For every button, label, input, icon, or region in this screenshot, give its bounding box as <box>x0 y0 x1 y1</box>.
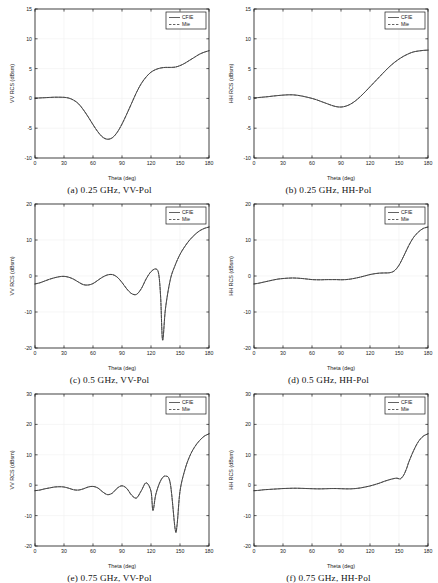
svg-text:Mie: Mie <box>182 216 190 222</box>
svg-text:CFIE: CFIE <box>401 14 413 20</box>
svg-text:-20: -20 <box>243 543 251 549</box>
svg-text:20: 20 <box>245 201 251 207</box>
svg-text:90: 90 <box>338 350 344 356</box>
svg-text:-10: -10 <box>243 309 251 315</box>
svg-text:30: 30 <box>280 548 286 554</box>
svg-text:120: 120 <box>365 548 374 554</box>
svg-text:0: 0 <box>29 273 32 279</box>
svg-text:0: 0 <box>29 95 32 101</box>
svg-text:HH RCS (dBsm): HH RCS (dBsm) <box>227 64 233 104</box>
svg-text:CFIE: CFIE <box>182 14 194 20</box>
svg-text:10: 10 <box>26 36 32 42</box>
caption-c: (c) 0.5 GHz, VV-Pol <box>70 374 150 385</box>
svg-text:180: 180 <box>204 160 213 166</box>
svg-text:150: 150 <box>175 350 184 356</box>
svg-text:90: 90 <box>338 160 344 166</box>
plot-c: 0306090120150180-20-1001020Theta (deg)VV… <box>5 195 215 374</box>
svg-text:0: 0 <box>248 273 251 279</box>
svg-text:-10: -10 <box>24 309 32 315</box>
svg-text:20: 20 <box>245 421 251 427</box>
svg-text:120: 120 <box>146 350 155 356</box>
svg-text:Theta (deg): Theta (deg) <box>108 175 136 181</box>
svg-text:-5: -5 <box>27 125 32 131</box>
svg-text:120: 120 <box>365 350 374 356</box>
panel-c: 0306090120150180-20-1001020Theta (deg)VV… <box>0 195 219 385</box>
svg-text:30: 30 <box>61 160 67 166</box>
svg-text:10: 10 <box>26 452 32 458</box>
svg-text:60: 60 <box>309 548 315 554</box>
svg-text:-20: -20 <box>24 345 32 351</box>
svg-text:120: 120 <box>146 160 155 166</box>
svg-text:120: 120 <box>365 160 374 166</box>
svg-text:-5: -5 <box>246 125 251 131</box>
svg-text:Mie: Mie <box>401 216 409 222</box>
svg-text:15: 15 <box>26 6 32 12</box>
caption-e: (e) 0.75 GHz, VV-Pol <box>67 572 151 583</box>
svg-text:VV RCS (dBsm): VV RCS (dBsm) <box>8 256 14 295</box>
plot-b: 0306090120150180-10-5051015Theta (deg)HH… <box>224 0 434 184</box>
svg-text:0: 0 <box>29 482 32 488</box>
svg-text:180: 180 <box>423 350 432 356</box>
svg-text:60: 60 <box>90 350 96 356</box>
panel-d: 0306090120150180-20-1001020Theta (deg)HH… <box>219 195 438 385</box>
svg-text:30: 30 <box>61 548 67 554</box>
svg-text:Theta (deg): Theta (deg) <box>327 175 355 181</box>
panel-e: 0306090120150180-20-100102030Theta (deg)… <box>0 385 219 583</box>
svg-text:120: 120 <box>146 548 155 554</box>
svg-text:VV RCS (dBsm): VV RCS (dBsm) <box>8 64 14 103</box>
svg-text:VV RCS (dBsm): VV RCS (dBsm) <box>8 450 14 489</box>
panel-a: 0306090120150180-10-5051015Theta (deg)VV… <box>0 0 219 195</box>
svg-text:150: 150 <box>175 548 184 554</box>
svg-text:0: 0 <box>33 350 36 356</box>
svg-text:20: 20 <box>26 201 32 207</box>
svg-text:0: 0 <box>33 160 36 166</box>
svg-text:15: 15 <box>245 6 251 12</box>
panel-b: 0306090120150180-10-5051015Theta (deg)HH… <box>219 0 438 195</box>
plot-a: 0306090120150180-10-5051015Theta (deg)VV… <box>5 0 215 184</box>
svg-text:0: 0 <box>252 350 255 356</box>
svg-text:180: 180 <box>204 350 213 356</box>
svg-text:90: 90 <box>119 160 125 166</box>
svg-text:10: 10 <box>245 36 251 42</box>
svg-text:Mie: Mie <box>182 406 190 412</box>
svg-text:Theta (deg): Theta (deg) <box>108 563 136 569</box>
svg-text:5: 5 <box>29 66 32 72</box>
svg-text:Theta (deg): Theta (deg) <box>108 365 136 371</box>
svg-text:90: 90 <box>119 548 125 554</box>
chart-e: 0306090120150180-20-100102030Theta (deg)… <box>5 385 215 572</box>
svg-text:10: 10 <box>245 452 251 458</box>
svg-text:Mie: Mie <box>401 21 409 27</box>
plot-e: 0306090120150180-20-100102030Theta (deg)… <box>5 385 215 572</box>
panel-f: 0306090120150180-20-100102030Theta (deg)… <box>219 385 438 583</box>
svg-text:Mie: Mie <box>401 406 409 412</box>
plot-f: 0306090120150180-20-100102030Theta (deg)… <box>224 385 434 572</box>
svg-text:60: 60 <box>309 350 315 356</box>
plot-d: 0306090120150180-20-1001020Theta (deg)HH… <box>224 195 434 374</box>
svg-text:10: 10 <box>245 237 251 243</box>
svg-text:180: 180 <box>423 548 432 554</box>
svg-text:90: 90 <box>338 548 344 554</box>
svg-text:150: 150 <box>175 160 184 166</box>
svg-text:30: 30 <box>280 160 286 166</box>
svg-text:30: 30 <box>280 350 286 356</box>
svg-text:Theta (deg): Theta (deg) <box>327 365 355 371</box>
svg-text:0: 0 <box>252 548 255 554</box>
chart-f: 0306090120150180-20-100102030Theta (deg)… <box>224 385 434 572</box>
svg-text:150: 150 <box>394 160 403 166</box>
caption-d: (d) 0.5 GHz, HH-Pol <box>288 374 369 385</box>
chart-a: 0306090120150180-10-5051015Theta (deg)VV… <box>5 0 215 184</box>
svg-text:180: 180 <box>423 160 432 166</box>
svg-text:-20: -20 <box>24 543 32 549</box>
svg-text:HH RCS (dBsm): HH RCS (dBsm) <box>227 450 233 490</box>
svg-text:Mie: Mie <box>182 21 190 27</box>
svg-text:-10: -10 <box>24 513 32 519</box>
svg-text:-20: -20 <box>243 345 251 351</box>
chart-c: 0306090120150180-20-1001020Theta (deg)VV… <box>5 195 215 374</box>
svg-text:5: 5 <box>248 66 251 72</box>
svg-text:0: 0 <box>252 160 255 166</box>
svg-text:-10: -10 <box>243 513 251 519</box>
svg-text:90: 90 <box>119 350 125 356</box>
svg-text:60: 60 <box>90 548 96 554</box>
svg-text:CFIE: CFIE <box>182 209 194 215</box>
svg-text:-10: -10 <box>243 155 251 161</box>
